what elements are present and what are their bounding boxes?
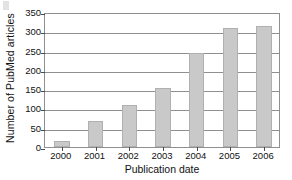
x-axis-tick-label: 2000: [50, 150, 71, 162]
x-axis-tick-labels: 2000200120022003200420052006: [44, 150, 280, 164]
y-axis-title: Number of PubMed articles: [4, 7, 16, 149]
y-axis-tick-labels: 050100150200250300350: [16, 0, 41, 180]
y-axis-tick-label: 200: [16, 66, 41, 76]
x-axis-title: Publication date: [44, 163, 280, 175]
bar: [223, 28, 239, 147]
y-axis-tick-label: 100: [16, 104, 41, 114]
plot-area: [44, 13, 280, 148]
bar: [88, 121, 104, 147]
x-axis-tick-label: 2005: [219, 150, 240, 162]
x-axis-tick-label: 2001: [84, 150, 105, 162]
y-axis-tick-label: 0: [16, 143, 41, 153]
y-axis-tick-label: 350: [16, 8, 41, 18]
y-axis-tick-label: 150: [16, 85, 41, 95]
x-axis-tick-label: 2006: [253, 150, 274, 162]
bar-chart-figure: Number of PubMed articles 05010015020025…: [0, 0, 292, 180]
x-axis-tick-label: 2003: [151, 150, 172, 162]
bars-group: [45, 14, 279, 147]
bar: [122, 105, 138, 147]
y-axis-tick-label: 50: [16, 124, 41, 134]
x-axis-tick-label: 2002: [118, 150, 139, 162]
y-axis-tick-label: 300: [16, 27, 41, 37]
y-axis-tick-label: 250: [16, 47, 41, 57]
bar: [189, 53, 205, 147]
x-axis-tick-label: 2004: [185, 150, 206, 162]
bar: [256, 26, 272, 148]
bar: [155, 88, 171, 147]
